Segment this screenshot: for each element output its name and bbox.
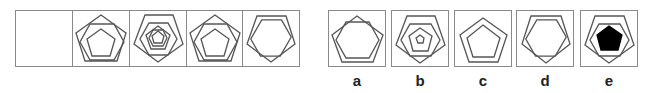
option-c-label[interactable]: c <box>454 72 512 89</box>
nested-shapes-icon <box>243 11 300 66</box>
nested-shapes-icon <box>73 11 130 66</box>
nested-shapes-icon <box>130 11 187 66</box>
option-e[interactable] <box>580 10 638 67</box>
filled-pentagon-icon <box>597 26 622 50</box>
sequence-strip <box>15 10 300 67</box>
option-a-label[interactable]: a <box>328 72 386 89</box>
option-d-label[interactable]: d <box>516 72 574 89</box>
nested-shapes-icon <box>392 11 449 68</box>
sequence-cell-2 <box>72 11 129 66</box>
option-a[interactable] <box>328 10 386 67</box>
sequence-cell-5 <box>242 11 299 66</box>
option-e-label[interactable]: e <box>580 72 638 89</box>
nested-shapes-icon <box>517 11 575 68</box>
nested-shapes-icon <box>455 11 512 68</box>
sequence-cell-3 <box>129 11 186 66</box>
option-b-label[interactable]: b <box>391 72 449 89</box>
option-c[interactable] <box>454 10 512 67</box>
sequence-cell-1-blank <box>16 11 72 66</box>
nested-shapes-icon <box>581 11 639 68</box>
nested-shapes-icon <box>187 11 243 66</box>
nested-shapes-icon <box>329 11 387 68</box>
option-d[interactable] <box>516 10 574 67</box>
option-b[interactable] <box>391 10 449 67</box>
sequence-cell-4 <box>186 11 242 66</box>
